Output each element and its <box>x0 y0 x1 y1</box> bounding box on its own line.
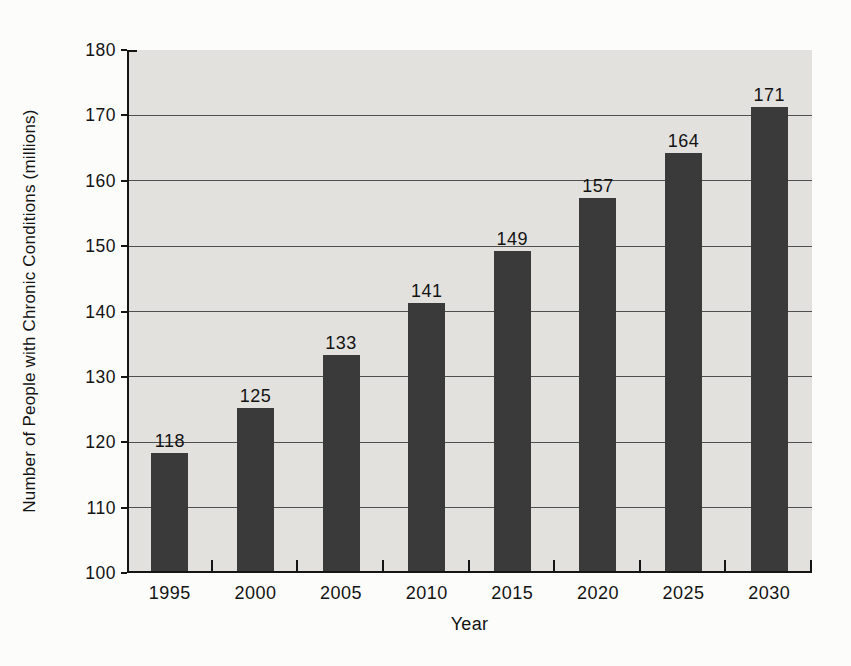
x-tick-8 <box>810 560 812 571</box>
y-tick-label-130: 130 <box>46 367 116 387</box>
y-tick-label-180: 180 <box>46 40 116 60</box>
y-axis-title: Number of People with Chronic Conditions… <box>20 109 40 512</box>
gridline-110 <box>129 507 812 508</box>
bar-2010 <box>408 303 445 571</box>
y-tick-170 <box>121 114 127 116</box>
gridline-140 <box>129 311 812 312</box>
y-tick-160 <box>121 180 127 182</box>
x-axis-title: Year <box>127 614 812 635</box>
x-tick-label-2030: 2030 <box>726 582 812 604</box>
bar-2000 <box>237 408 274 571</box>
bar-value-label-2030: 171 <box>734 85 804 105</box>
x-tick-label-2005: 2005 <box>298 582 384 604</box>
gridline-150 <box>129 246 812 247</box>
x-tick-2 <box>296 560 298 571</box>
bar-value-label-2010: 141 <box>392 281 462 301</box>
y-tick-100 <box>121 572 127 574</box>
bar-chart-figure: Number of People with Chronic Conditions… <box>0 0 851 666</box>
y-tick-140 <box>121 311 127 313</box>
gridline-160 <box>129 180 812 181</box>
y-tick-label-170: 170 <box>46 105 116 125</box>
x-tick-5 <box>553 560 555 571</box>
bar-value-label-2015: 149 <box>477 229 547 249</box>
x-tick-label-1995: 1995 <box>127 582 213 604</box>
gridline-130 <box>129 376 812 377</box>
x-tick-6 <box>639 560 641 571</box>
y-tick-label-140: 140 <box>46 302 116 322</box>
bar-2030 <box>751 107 788 571</box>
x-tick-label-2000: 2000 <box>213 582 299 604</box>
y-tick-label-100: 100 <box>46 563 116 583</box>
bar-2005 <box>323 355 360 571</box>
bar-2025 <box>665 153 702 571</box>
bar-value-label-2005: 133 <box>306 333 376 353</box>
y-tick-150 <box>121 245 127 247</box>
y-tick-label-160: 160 <box>46 171 116 191</box>
x-tick-4 <box>468 560 470 571</box>
bar-value-label-2020: 157 <box>563 176 633 196</box>
y-axis-top-tick <box>127 50 137 52</box>
x-tick-label-2020: 2020 <box>555 582 641 604</box>
y-tick-120 <box>121 441 127 443</box>
y-tick-label-110: 110 <box>46 498 116 518</box>
bar-1995 <box>151 453 188 571</box>
y-tick-label-150: 150 <box>46 236 116 256</box>
y-tick-130 <box>121 376 127 378</box>
gridline-120 <box>129 442 812 443</box>
bar-value-label-1995: 118 <box>135 431 205 451</box>
y-tick-label-120: 120 <box>46 432 116 452</box>
bar-2020 <box>579 198 616 571</box>
x-tick-label-2025: 2025 <box>641 582 727 604</box>
plot-area <box>127 50 812 573</box>
x-tick-3 <box>382 560 384 571</box>
y-tick-110 <box>121 507 127 509</box>
bar-value-label-2025: 164 <box>649 131 719 151</box>
bar-2015 <box>494 251 531 571</box>
x-tick-label-2010: 2010 <box>384 582 470 604</box>
gridline-170 <box>129 115 812 116</box>
x-tick-label-2015: 2015 <box>470 582 556 604</box>
x-tick-1 <box>211 560 213 571</box>
bar-value-label-2000: 125 <box>220 386 290 406</box>
x-tick-7 <box>724 560 726 571</box>
